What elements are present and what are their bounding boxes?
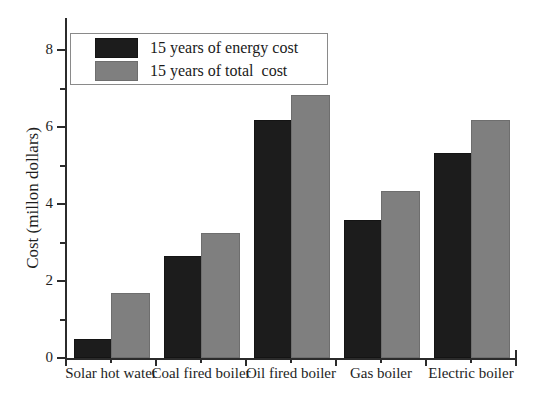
bar-energy-cost [164,256,203,358]
y-tick-label: 4 [31,196,53,211]
x-tick-minor [200,358,202,363]
y-tick-minor [60,165,66,167]
y-tick-major [57,126,66,128]
y-tick-label: 6 [31,119,53,134]
bar-total-cost [471,120,510,358]
bar-energy-cost [254,120,293,358]
legend-label-energy-cost: 15 years of energy cost [150,40,298,56]
y-tick-minor [60,319,66,321]
y-tick-major [57,280,66,282]
y-tick-minor [60,88,66,90]
y-tick-major [57,203,66,205]
bar-total-cost [381,191,420,358]
bar-energy-cost [434,153,473,358]
x-tick-minor [290,358,292,363]
x-axis-category-label: Electric boiler [411,365,531,382]
bar-total-cost [111,293,150,358]
y-tick-label: 0 [31,350,53,365]
x-tick-minor [110,358,112,363]
legend-swatch-energy-cost [95,38,138,58]
bar-energy-cost [344,220,383,358]
bar-chart: Cost (millon dollars) 02468 Solar hot wa… [0,0,541,408]
chart-legend: 15 years of energy cost 15 years of tota… [70,33,328,85]
legend-item-total-cost: 15 years of total cost [71,59,287,83]
bar-total-cost [291,95,330,358]
legend-label-total-cost: 15 years of total cost [150,63,287,79]
legend-item-energy-cost: 15 years of energy cost [71,36,298,60]
y-tick-label: 2 [31,273,53,288]
bar-total-cost [201,233,240,358]
y-axis-line [65,18,67,360]
y-tick-minor [60,242,66,244]
y-tick-major [57,49,66,51]
x-tick-minor [470,358,472,363]
bar-energy-cost [74,339,113,358]
y-tick-label: 8 [31,42,53,57]
x-tick-minor [380,358,382,363]
legend-swatch-total-cost [95,61,138,81]
